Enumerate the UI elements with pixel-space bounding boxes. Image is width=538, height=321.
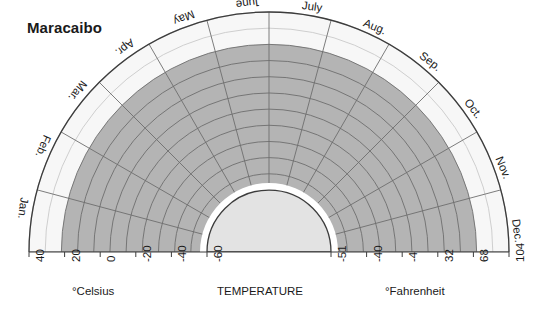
axis-tick-marks xyxy=(29,252,509,257)
celsius-tick-label: 40 xyxy=(34,249,46,262)
temperature-axis-label: TEMPERATURE xyxy=(217,285,303,297)
fahrenheit-tick-label: -51 xyxy=(336,245,348,262)
fahrenheit-tick-label: 32 xyxy=(443,249,455,262)
celsius-tick-label: -40 xyxy=(176,245,188,262)
celsius-axis-label: °Celsius xyxy=(72,285,114,297)
fahrenheit-axis-label: °Fahrenheit xyxy=(385,285,445,297)
climogram-chart xyxy=(0,0,538,321)
fahrenheit-tick-label: 104 xyxy=(514,243,526,262)
celsius-tick-label: -60 xyxy=(212,245,224,262)
fahrenheit-tick-label: -4 xyxy=(407,252,419,262)
fahrenheit-tick-label: -40 xyxy=(372,245,384,262)
celsius-tick-label: 20 xyxy=(70,249,82,262)
fahrenheit-tick-label: 68 xyxy=(478,249,490,262)
celsius-tick-label: -20 xyxy=(141,245,153,262)
chart-plot-area xyxy=(29,12,509,252)
celsius-tick-label: 0 xyxy=(105,256,117,262)
climogram-svg xyxy=(0,0,538,321)
